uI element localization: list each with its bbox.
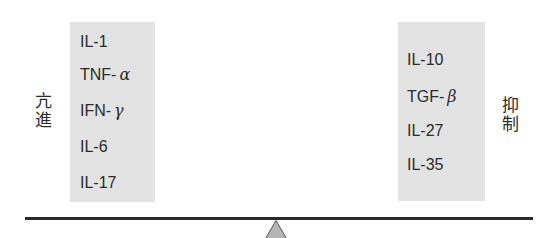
- greek-letter: β: [447, 87, 456, 106]
- antiinflammatory-cytokine-box: [398, 22, 485, 201]
- cytokine-label: IL-1: [80, 33, 108, 50]
- fulcrum-shape: [264, 220, 288, 238]
- cytokine-label: TGF-: [407, 88, 444, 105]
- cytokine-il-35: IL-35: [407, 156, 446, 174]
- cytokine-label: IL-27: [407, 122, 443, 139]
- cytokine-tnf-alpha: TNF-α: [80, 66, 130, 84]
- cytokine-tgf-beta: TGF-β: [407, 88, 457, 106]
- cytokine-label: TNF-: [80, 66, 116, 83]
- cytokine-ifn-gamma: IFN-γ: [80, 102, 124, 120]
- cytokine-il-27: IL-27: [407, 122, 446, 140]
- greek-letter: α: [119, 65, 130, 84]
- suppression-label: 抑 制: [501, 96, 519, 134]
- enhancement-label: 亢 進: [34, 92, 52, 130]
- cytokine-il-1: IL-1: [80, 33, 111, 51]
- suppression-label-char-1: 抑: [501, 96, 519, 115]
- cytokine-label: IL-10: [407, 51, 443, 68]
- cytokine-il-17: IL-17: [80, 174, 119, 192]
- enhancement-label-char-1: 亢: [34, 92, 52, 111]
- enhancement-label-char-2: 進: [34, 111, 52, 130]
- greek-letter: γ: [114, 101, 124, 120]
- cytokine-label: IL-17: [80, 174, 116, 191]
- cytokine-label: IL-6: [80, 138, 108, 155]
- cytokine-label: IL-35: [407, 156, 443, 173]
- suppression-label-char-2: 制: [501, 115, 519, 134]
- cytokine-il-10: IL-10: [407, 51, 446, 69]
- cytokine-il-6: IL-6: [80, 138, 111, 156]
- cytokine-label: IFN-: [80, 102, 111, 119]
